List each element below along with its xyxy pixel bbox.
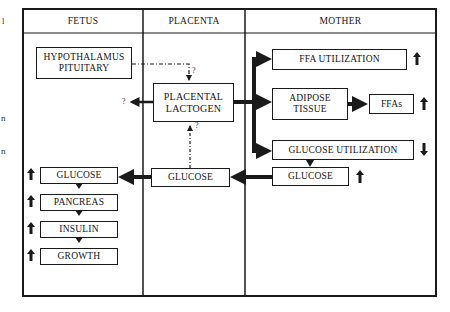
column-header-placenta: PLACENTA	[143, 9, 245, 33]
glucose-utilization-to-glucose-arrow	[306, 160, 314, 167]
maternal-glucose-box: GLUCOSE	[272, 167, 349, 186]
ffas-box: FFAs	[369, 94, 414, 114]
question-mark-hypothalamus: ?	[192, 66, 196, 75]
box-label-line: PITUITARY	[59, 63, 110, 74]
trend-up-icon	[420, 97, 428, 110]
box-label-line: PLACENTAL	[164, 91, 223, 103]
box-label-line: LACTOGEN	[166, 103, 221, 115]
trend-up-icon	[356, 170, 364, 183]
fetal-glucose-box: GLUCOSE	[40, 167, 118, 184]
adipose-tissue-box: ADIPOSE TISSUE	[272, 88, 348, 120]
trend-up-icon	[27, 222, 35, 234]
placental-glucose-box: GLUCOSE	[151, 168, 230, 187]
box-label-line: TISSUE	[293, 104, 326, 115]
trend-up-icon	[27, 195, 35, 207]
trend-up-icon	[413, 52, 421, 65]
glucose-utilization-box: GLUCOSE UTILIZATION	[272, 140, 414, 160]
placental-lactogen-box: PLACENTAL LACTOGEN	[153, 83, 234, 122]
hypothalamus-to-lactogen-connector	[132, 64, 189, 80]
column-header-fetus: FETUS	[23, 9, 143, 33]
box-label-line: HYPOTHALAMUS	[43, 52, 124, 63]
pancreas-box: PANCREAS	[40, 194, 118, 211]
growth-box: GROWTH	[40, 248, 118, 265]
trend-up-icon	[27, 249, 35, 261]
insulin-box: INSULIN	[40, 221, 118, 238]
trend-up-icon	[27, 168, 35, 180]
question-mark-glucose: ?	[195, 121, 199, 130]
trend-down-icon	[420, 143, 428, 156]
column-header-mother: MOTHER	[245, 9, 436, 33]
question-mark-fetus-effect: ?	[122, 97, 126, 106]
box-label-line: ADIPOSE	[289, 93, 331, 104]
hypothalamus-pituitary-box: HYPOTHALAMUS PITUITARY	[36, 47, 132, 79]
ffa-utilization-box: FFA UTILIZATION	[272, 49, 407, 70]
